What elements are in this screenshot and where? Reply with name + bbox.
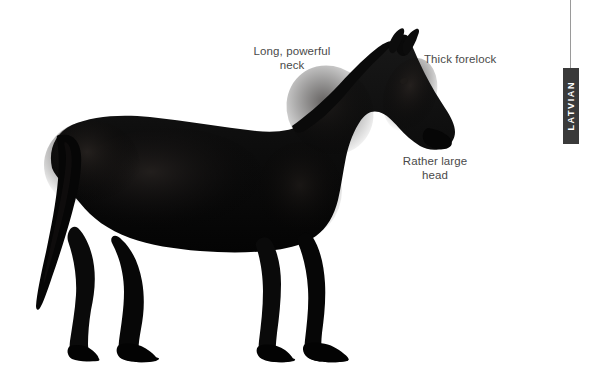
horse-hoof-fore-far xyxy=(257,345,293,363)
side-tab-latvian: LATVIAN xyxy=(563,68,579,144)
horse-hindleg-far xyxy=(68,227,100,362)
annotation-thick-forelock: Thick forelock xyxy=(424,52,524,66)
page-root: Long, powerful neck Thick forelock Rathe… xyxy=(0,0,595,384)
side-tab-rule xyxy=(570,0,571,68)
side-tab-label: LATVIAN xyxy=(566,81,576,131)
horse-hoof-fore-near xyxy=(303,343,349,363)
annotation-rather-large-head: Rather large head xyxy=(388,154,482,182)
horse-foreleg-far xyxy=(256,237,295,362)
horse-hindleg-near xyxy=(111,236,159,362)
horse-hoof-hind-far xyxy=(68,345,99,361)
horse-hoof-hind-near xyxy=(117,344,157,363)
annotation-long-powerful-neck: Long, powerful neck xyxy=(238,44,346,72)
horse-foreleg-near xyxy=(297,233,348,363)
